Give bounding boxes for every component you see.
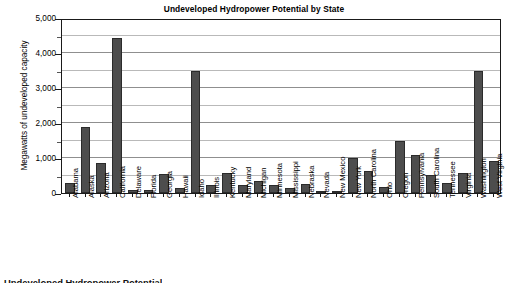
x-axis-label-washington: Washington [480, 158, 488, 198]
x-tick-0 [69, 194, 70, 197]
hydropower-bar-chart: Undeveloped Hydropower Potential by Stat… [0, 0, 508, 291]
x-axis-label-nevada: Nevada [323, 172, 331, 198]
x-axis-label-oregon: Oregon [402, 173, 410, 198]
x-tick-14 [289, 194, 290, 197]
y-tick-label-5000: 5,000 [16, 15, 56, 23]
y-tick-label-4000: 4,000 [16, 50, 56, 58]
x-axis-label-nebraska: Nebraska [308, 166, 316, 199]
x-tick-15 [305, 194, 306, 197]
x-tick-10 [226, 194, 227, 197]
x-tick-21 [399, 194, 400, 197]
x-tick-13 [273, 194, 274, 197]
x-axis-label-florida: Florida [150, 175, 158, 198]
x-axis-label-alaska: Alaska [88, 175, 96, 198]
x-tick-8 [195, 194, 196, 197]
x-tick-3 [116, 194, 117, 197]
x-tick-22 [415, 194, 416, 197]
x-axis-label-maryland: Maryland [245, 167, 253, 198]
x-axis-label-hawaii: Hawaii [182, 175, 190, 198]
x-tick-27 [493, 194, 494, 197]
x-tick-6 [163, 194, 164, 197]
x-axis-label-ohio: Ohio [386, 182, 394, 198]
chart-title: Undeveloped Hydropower Potential by Stat… [0, 4, 508, 14]
x-axis-label-michigan: Michigan [260, 168, 268, 198]
x-axis-label-pennsylvania: Pennsylvania [418, 153, 426, 198]
x-axis-label-georgia: Georgia [166, 171, 174, 198]
x-axis-label-west-virginia: West Virginia [496, 154, 504, 198]
x-axis-label-alabama: Alabama [72, 168, 80, 198]
x-tick-1 [85, 194, 86, 197]
x-axis-label-idaho: Idaho [198, 179, 206, 198]
bottom-caption: Undeveloped Hydropower Potential [4, 277, 162, 283]
x-axis-label-new-york: New York [355, 166, 363, 198]
x-tick-18 [352, 194, 353, 197]
y-tick-mark-0 [55, 194, 61, 195]
x-axis-label-arizona: Arizona [103, 172, 111, 198]
x-axis-label-virginia: Virginia [465, 173, 473, 198]
x-tick-4 [132, 194, 133, 197]
x-axis-label-new-mexico: New Mexico [339, 157, 347, 198]
x-axis-label-california: California [119, 166, 127, 198]
x-tick-11 [242, 194, 243, 197]
x-axis-label-delaware: Delaware [135, 166, 143, 198]
bar-idaho [191, 71, 201, 194]
y-tick-label-1000: 1,000 [16, 155, 56, 163]
x-tick-17 [336, 194, 337, 197]
x-axis-label-illinois: Illinois [213, 177, 221, 198]
x-axis-label-minnesota: Minnesota [276, 163, 284, 198]
x-tick-7 [179, 194, 180, 197]
x-axis-label-north-carolina: North Carolina [370, 149, 378, 198]
y-tick-label-0: 0 [16, 190, 56, 198]
y-tick-label-2000: 2,000 [16, 120, 56, 128]
y-tick-label-3000: 3,000 [16, 85, 56, 93]
x-tick-20 [383, 194, 384, 197]
x-tick-25 [462, 194, 463, 197]
x-tick-24 [446, 194, 447, 197]
x-axis-label-kentucky: Kentucky [229, 167, 237, 198]
x-axis-label-tennessee: Tennessee [449, 161, 457, 198]
y-axis-title: Megawatts of undeveloped capacity [20, 16, 29, 196]
x-axis-label-mississippi: Mississippi [292, 161, 300, 198]
x-axis-label-south-carolina: South Carolina [433, 148, 441, 198]
